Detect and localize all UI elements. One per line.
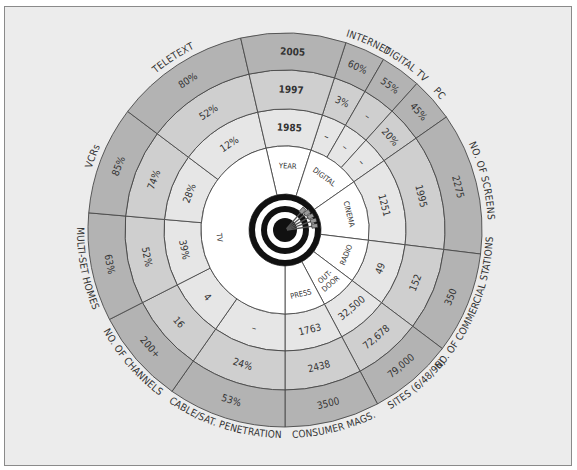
year-label: YEAR: [278, 161, 297, 171]
media-target-wheel: –3%60%––55%–20%45%1251199522754915235032…: [0, 0, 577, 470]
bullseye-icon: [249, 194, 321, 266]
year-1985: 1985: [277, 122, 303, 134]
category-label-pc: PC: [431, 85, 447, 101]
media-label-tv: TV: [214, 232, 224, 243]
year-1997: 1997: [278, 84, 304, 96]
year-2005: 2005: [280, 46, 306, 58]
